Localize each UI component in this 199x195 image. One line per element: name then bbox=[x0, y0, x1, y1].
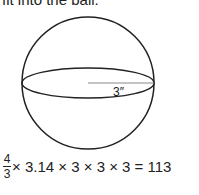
radius-label: 3″ bbox=[113, 85, 125, 99]
volume-equation: 4 3 × 3.14 × 3 × 3 × 3 = 113 bbox=[3, 153, 171, 180]
equation-expression: × 3.14 × 3 × 3 × 3 = 113 bbox=[12, 158, 171, 175]
fraction: 4 3 bbox=[3, 153, 11, 180]
fraction-numerator: 4 bbox=[4, 153, 11, 165]
fraction-denominator: 3 bbox=[4, 168, 11, 180]
sphere-diagram: 3″ bbox=[0, 0, 199, 155]
